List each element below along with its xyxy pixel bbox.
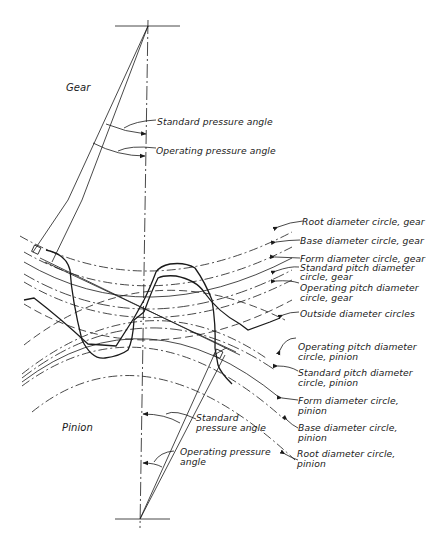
callout-operating-pitch-pinion: Operating pitch diameter circle, pinion [298, 342, 417, 362]
callout-line2: circle, gear [300, 293, 419, 303]
center-line [140, 20, 148, 528]
callout-line2: pinion [298, 406, 399, 416]
callout-line2: circle, gear [300, 272, 415, 282]
gear-pressure-lines [33, 26, 148, 262]
callout-form-diameter-pinion: Form diameter circle, pinion [298, 396, 399, 416]
callout-line1: Base diameter circle, gear [300, 236, 424, 246]
callout-outside-diameter: Outside diameter circles [300, 309, 415, 319]
callout-line1: Outside diameter circles [300, 309, 415, 319]
gear-standard-pressure-angle-label: Standard pressure angle [157, 117, 273, 127]
gear-operating-pressure-angle-label: Operating pressure angle [156, 146, 276, 156]
callout-standard-pitch-pinion: Standard pitch diameter circle, pinion [298, 368, 413, 388]
pinion-pressure-lines [140, 348, 226, 519]
callout-line2: circle, pinion [298, 352, 417, 362]
callout-line2: pinion [297, 459, 395, 469]
gear-label: Gear [66, 83, 91, 93]
callout-line2: circle, pinion [298, 378, 413, 388]
callout-base-diameter-gear: Base diameter circle, gear [300, 236, 424, 246]
callout-root-diameter-gear: Root diameter circle, gear [302, 217, 425, 227]
pinion-operating-pressure-angle-line2: angle [180, 457, 271, 467]
pinion-operating-pressure-angle-label: Operating pressure angle [180, 447, 271, 467]
callout-root-diameter-pinion: Root diameter circle, pinion [297, 449, 395, 469]
callout-operating-pitch-gear: Operating pitch diameter circle, gear [300, 283, 419, 303]
pinion-label: Pinion [62, 423, 93, 433]
callout-standard-pitch-gear: Standard pitch diameter circle, gear [300, 263, 415, 282]
callout-line1: Root diameter circle, gear [302, 217, 425, 227]
gear-circles [20, 232, 292, 340]
pinion-standard-pressure-angle-label: Standard pressure angle [196, 413, 266, 433]
pinion-standard-pressure-angle-line2: pressure angle [196, 423, 266, 433]
callout-line2: pinion [298, 433, 398, 443]
callout-base-diameter-pinion: Base diameter circle, pinion [298, 423, 398, 443]
